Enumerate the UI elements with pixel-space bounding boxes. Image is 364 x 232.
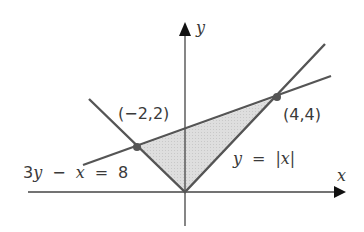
- label-line-minus: −: [52, 163, 65, 182]
- label-abs-rhs: |x|: [275, 149, 295, 168]
- diagram-figure: y x (−2,2) (4,4) y = |x| 3y − x = 8: [0, 0, 364, 232]
- point-right-intersection: [273, 93, 281, 101]
- y-axis-arrow-icon: [179, 22, 191, 36]
- label-left-point: (−2,2): [118, 104, 169, 123]
- label-absolute-value: y = |x|: [232, 149, 295, 168]
- label-line-x: x: [76, 163, 85, 182]
- x-axis-arrow-icon: [334, 186, 346, 198]
- label-line-rhs: 8: [118, 163, 128, 182]
- label-line-y: y: [32, 163, 43, 182]
- y-axis-label: y: [195, 18, 206, 37]
- label-line-eq: =: [95, 163, 108, 182]
- label-right-point: (4,4): [283, 105, 321, 124]
- label-line-3: 3: [23, 163, 33, 182]
- label-abs-lhs: y: [232, 149, 243, 168]
- label-abs-eq: =: [252, 149, 265, 168]
- x-axis-label: x: [337, 166, 346, 185]
- diagram-canvas: y x (−2,2) (4,4) y = |x| 3y − x = 8: [0, 0, 364, 232]
- label-line: 3y − x = 8: [23, 163, 128, 182]
- point-left-intersection: [133, 143, 141, 151]
